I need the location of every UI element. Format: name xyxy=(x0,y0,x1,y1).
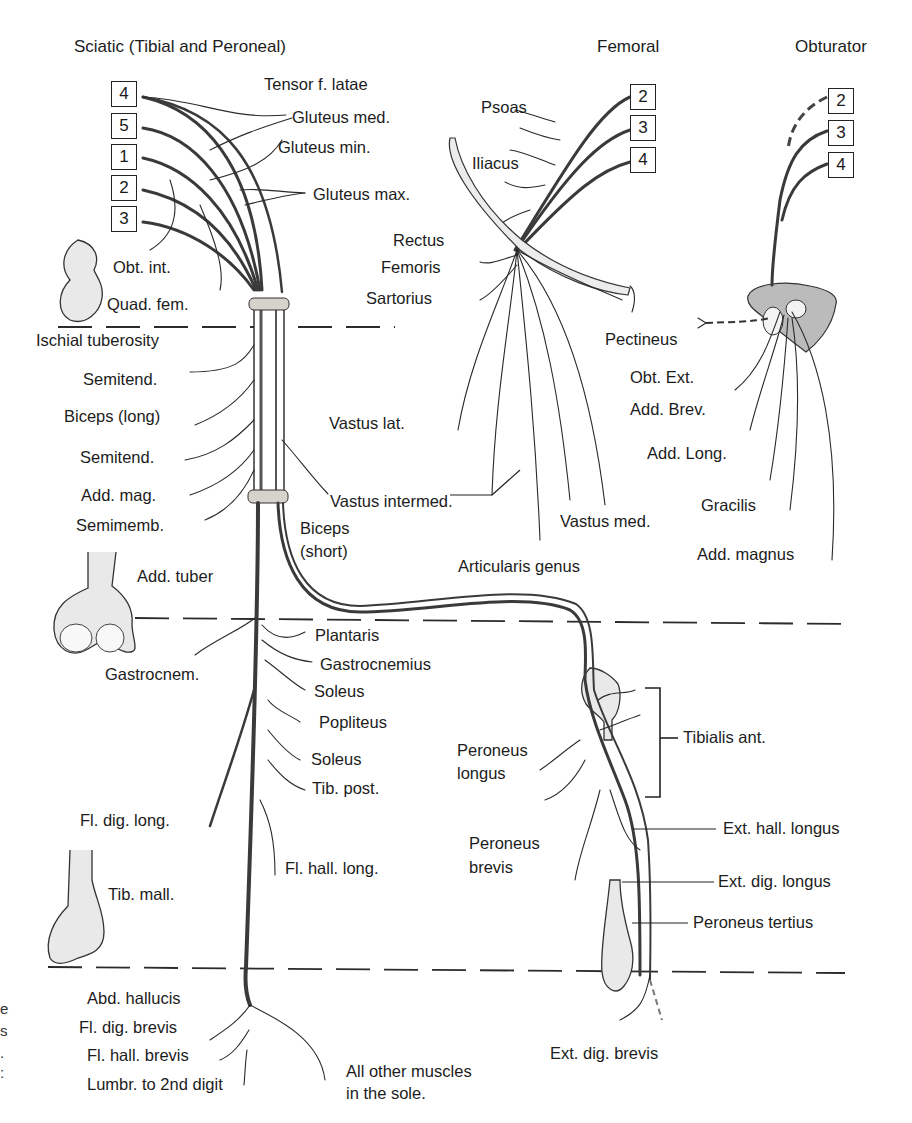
label-peroneus-brevis-2: brevis xyxy=(469,859,513,876)
root-box-L2: 2 xyxy=(630,84,656,110)
root-box-L4: 4 xyxy=(111,81,137,107)
label-quad-fem: Quad. fem. xyxy=(107,296,189,313)
ischial-tuberosity-bone xyxy=(60,240,102,321)
label-plantaris: Plantaris xyxy=(315,627,379,644)
label-rectus: Rectus xyxy=(393,232,444,249)
label-add-tuber: Add. tuber xyxy=(137,568,213,585)
label-articularis-genus: Articularis genus xyxy=(458,558,580,575)
sciatic-ring-upper xyxy=(249,298,289,310)
root-box-L2: 2 xyxy=(828,88,854,114)
sciatic-trunk xyxy=(185,298,328,520)
label-iliacus: Iliacus xyxy=(472,155,519,172)
root-box-S3: 3 xyxy=(111,206,137,232)
label-tensor-f-latae: Tensor f. latae xyxy=(264,76,368,93)
label-tib-post: Tib. post. xyxy=(312,780,379,797)
sciatic-header: Sciatic (Tibial and Peroneal) xyxy=(74,38,286,55)
femur-condyles-bone xyxy=(54,552,135,653)
label-vastus-med: Vastus med. xyxy=(560,513,650,530)
label-gastrocnem: Gastrocnem. xyxy=(105,666,199,683)
label-peroneus-longus-2: longus xyxy=(457,765,506,782)
label-ext-hall-longus: Ext. hall. longus xyxy=(723,820,839,837)
label-ext-dig-longus: Ext. dig. longus xyxy=(718,873,831,890)
label-tibialis-ant: Tibialis ant. xyxy=(683,729,766,746)
label-pectineus: Pectineus xyxy=(605,331,677,348)
tibia-malleolus-bone xyxy=(48,850,104,963)
label-biceps-long: Biceps (long) xyxy=(64,408,160,425)
label-obt-ext: Obt. Ext. xyxy=(630,369,694,386)
label-abd-hallucis: Abd. hallucis xyxy=(87,990,181,1007)
label-obt-int: Obt. int. xyxy=(113,259,171,276)
label-semitend-1: Semitend. xyxy=(83,371,157,388)
label-biceps-short-1: Biceps xyxy=(300,520,350,537)
label-biceps-short-2: (short) xyxy=(300,543,348,560)
label-add-brev: Add. Brev. xyxy=(630,401,706,418)
label-vastus-lat: Vastus lat. xyxy=(329,415,405,432)
label-add-long: Add. Long. xyxy=(647,445,727,462)
ankle-level-line xyxy=(48,967,845,973)
label-ext-dig-brevis: Ext. dig. brevis xyxy=(550,1045,658,1062)
root-box-L4: 4 xyxy=(630,147,656,173)
label-in-the-sole: in the sole. xyxy=(346,1085,426,1102)
femoral-header: Femoral xyxy=(597,38,659,55)
label-semitend-2: Semitend. xyxy=(80,449,154,466)
label-gastrocnemius: Gastrocnemius xyxy=(320,656,431,673)
root-box-L3: 3 xyxy=(630,115,656,141)
label-soleus-1: Soleus xyxy=(314,683,364,700)
root-box-L4: 4 xyxy=(828,152,854,178)
label-gluteus-max: Gluteus max. xyxy=(313,186,410,203)
label-soleus-2: Soleus xyxy=(311,751,361,768)
label-peroneus-tertius: Peroneus tertius xyxy=(693,914,813,931)
label-sartorius: Sartorius xyxy=(366,290,432,307)
label-psoas: Psoas xyxy=(481,99,527,116)
root-box-L3: 3 xyxy=(828,120,854,146)
sciatic-ring-lower xyxy=(248,490,288,503)
label-fl-hall-long: Fl. hall. long. xyxy=(285,860,379,877)
label-gluteus-min: Gluteus min. xyxy=(278,139,371,156)
label-add-mag: Add. mag. xyxy=(81,487,156,504)
label-vastus-intermed: Vastus intermed. xyxy=(330,493,453,510)
label-add-magnus: Add. magnus xyxy=(697,546,794,563)
root-box-L5: 5 xyxy=(111,113,137,139)
knee-level-line xyxy=(135,618,855,624)
label-all-other-muscles: All other muscles xyxy=(346,1063,472,1080)
label-fl-dig-brevis: Fl. dig. brevis xyxy=(79,1019,177,1036)
tibialis-ant-bracket xyxy=(622,688,716,923)
root-box-S1: 1 xyxy=(111,144,137,170)
label-fl-dig-long: Fl. dig. long. xyxy=(80,812,170,829)
obturator-header: Obturator xyxy=(795,38,867,55)
label-gluteus-med: Gluteus med. xyxy=(292,109,390,126)
label-fl-hall-brevis: Fl. hall. brevis xyxy=(87,1047,189,1064)
lateral-malleolus-bone xyxy=(602,880,633,991)
root-box-S2: 2 xyxy=(111,175,137,201)
label-lumbr-2nd-digit: Lumbr. to 2nd digit xyxy=(87,1076,223,1093)
label-peroneus-brevis-1: Peroneus xyxy=(469,835,540,852)
label-femoris: Femoris xyxy=(381,259,441,276)
label-popliteus: Popliteus xyxy=(319,714,387,731)
label-semimemb: Semimemb. xyxy=(76,517,164,534)
label-ischial-tuberosity: Ischial tuberosity xyxy=(36,332,159,349)
label-tib-mall: Tib. mall. xyxy=(108,886,174,903)
label-peroneus-longus-1: Peroneus xyxy=(457,742,528,759)
label-gracilis: Gracilis xyxy=(701,497,756,514)
